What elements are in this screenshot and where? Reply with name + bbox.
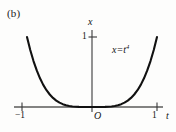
y-tick-label-1: 1 <box>82 31 87 41</box>
x-tick-label-neg1: −1 <box>15 110 25 120</box>
x-tick-label-1: 1 <box>152 110 157 120</box>
equation-base: x=t <box>112 44 126 55</box>
x-axis-label: t <box>166 110 169 121</box>
equation-exponent: 4 <box>126 43 129 50</box>
origin-label: O <box>94 110 101 121</box>
y-axis-label: x <box>88 16 92 27</box>
figure-panel-b: (b) x t 1 −1 1 O x=t4 <box>0 0 176 132</box>
curve-equation-label: x=t4 <box>112 44 129 55</box>
